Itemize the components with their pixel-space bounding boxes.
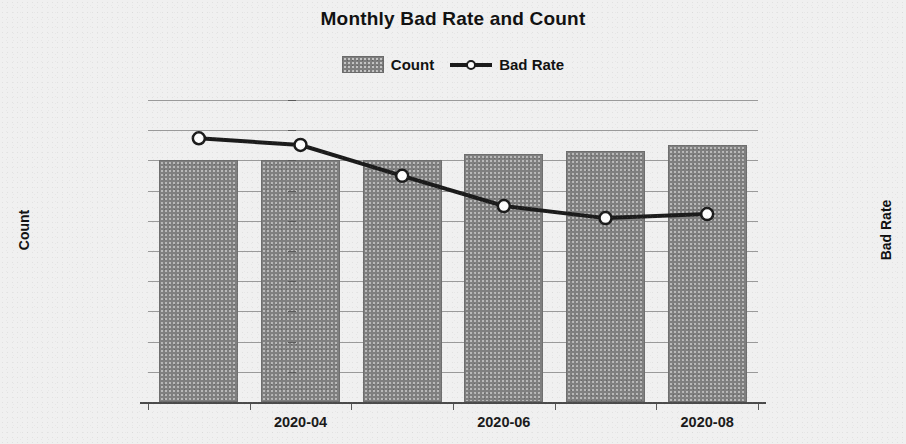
legend-item-count: Count <box>342 56 434 73</box>
legend-label-bad-rate: Bad Rate <box>499 56 564 73</box>
chart-container: Monthly Bad Rate and Count Count Bad Rat… <box>0 0 906 444</box>
y-axis-left-tick-mark <box>288 281 296 282</box>
y-axis-left-tick-mark <box>288 160 296 161</box>
line-series-bad-rate: 2020-03: 3.93%2020-04: 3.83%2020-05: 3.3… <box>148 100 758 402</box>
y-axis-left-tick-mark <box>288 342 296 343</box>
bad-rate-line <box>199 138 707 218</box>
legend-bar-swatch-icon <box>342 56 384 73</box>
y-axis-left-tick-mark <box>288 311 296 312</box>
bad-rate-marker[interactable]: 2020-07: 2.74% <box>600 212 612 224</box>
bad-rate-marker[interactable]: 2020-06: 2.92% <box>498 200 510 212</box>
y-axis-left-title: Count <box>16 190 32 270</box>
chart-legend: Count Bad Rate <box>0 56 906 73</box>
y-axis-right-title: Bad Rate <box>878 180 894 280</box>
chart-title: Monthly Bad Rate and Count <box>0 8 906 30</box>
y-axis-left-tick-mark <box>288 221 296 222</box>
bad-rate-marker[interactable]: 2020-03: 3.93% <box>193 132 205 144</box>
legend-line-marker-icon <box>450 58 492 72</box>
y-axis-left-tick-mark <box>288 372 296 373</box>
legend-label-count: Count <box>391 56 434 73</box>
bad-rate-marker[interactable]: 2020-08: 2.80% <box>701 208 713 220</box>
y-axis-left-tick-mark <box>288 191 296 192</box>
axis-baseline <box>140 402 766 404</box>
x-axis-tick-label: 2020-06 <box>444 414 564 430</box>
legend-item-bad-rate: Bad Rate <box>450 56 564 73</box>
plot-area: 2020-03: 3.93%2020-04: 3.83%2020-05: 3.3… <box>148 100 758 402</box>
x-axis-tick-label: 2020-04 <box>241 414 361 430</box>
y-axis-left-tick-mark <box>288 100 296 101</box>
bad-rate-marker[interactable]: 2020-04: 3.83% <box>295 139 307 151</box>
y-axis-left-tick-mark <box>288 130 296 131</box>
x-axis-tick-label: 2020-08 <box>647 414 767 430</box>
bad-rate-marker[interactable]: 2020-05: 3.37% <box>396 170 408 182</box>
y-axis-left-tick-mark <box>288 251 296 252</box>
